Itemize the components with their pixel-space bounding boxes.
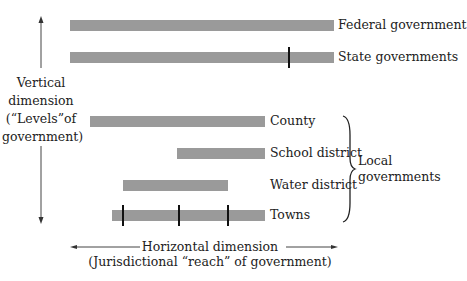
school-district-label: School district	[270, 147, 362, 160]
federal-label: Federal government	[338, 19, 467, 32]
local-governments-label: Local governments	[358, 153, 441, 185]
vertical-axis-line-1: Vertical	[2, 74, 80, 92]
local-label-line-1: Local	[358, 153, 441, 169]
towns-label: Towns	[270, 209, 310, 222]
horizontal-axis-line-2: (Jurisdictional “reach” of government)	[60, 254, 360, 269]
school-district-bar	[177, 148, 265, 159]
water-district-bar	[123, 180, 228, 191]
federal-bar	[70, 20, 334, 31]
horizontal-axis-label: Horizontal dimension (Jurisdictional “re…	[60, 239, 360, 269]
towns-divider-tick-3	[227, 205, 229, 226]
vertical-axis-line-3: (“Levels”of	[2, 110, 80, 128]
towns-bar	[112, 210, 265, 221]
local-label-line-2: governments	[358, 169, 441, 185]
state-divider-tick	[288, 47, 290, 68]
vertical-axis-label: Vertical dimension (“Levels”of governmen…	[2, 74, 80, 146]
water-district-label: Water district	[270, 179, 357, 192]
vertical-axis-line-4: government)	[2, 128, 80, 146]
state-label: State governments	[338, 51, 458, 64]
county-bar	[90, 116, 265, 127]
state-bar	[70, 52, 334, 63]
towns-divider-tick-2	[178, 205, 180, 226]
horizontal-axis-line-1: Horizontal dimension	[60, 239, 360, 254]
towns-divider-tick-1	[122, 205, 124, 226]
vertical-axis-line-2: dimension	[2, 92, 80, 110]
county-label: County	[270, 115, 315, 128]
